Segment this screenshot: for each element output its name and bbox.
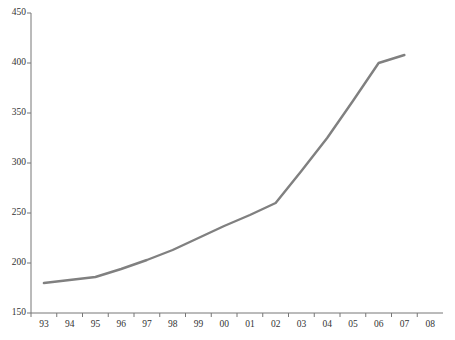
x-tick-label: 01 xyxy=(238,320,262,330)
x-tick-label: 96 xyxy=(109,320,133,330)
x-tick-label: 99 xyxy=(186,320,210,330)
x-tick-label: 03 xyxy=(289,320,313,330)
y-tick-label: 150 xyxy=(0,308,26,318)
x-tick-label: 97 xyxy=(135,320,159,330)
x-tick-label: 95 xyxy=(83,320,107,330)
x-tick-label: 02 xyxy=(264,320,288,330)
x-tick-label: 04 xyxy=(315,320,339,330)
x-tick-label: 94 xyxy=(58,320,82,330)
x-tick-label: 98 xyxy=(161,320,185,330)
y-tick-label: 200 xyxy=(0,258,26,268)
x-tick-label: 06 xyxy=(367,320,391,330)
x-tick-label: 05 xyxy=(341,320,365,330)
plot-area xyxy=(0,0,455,340)
x-tick-label: 00 xyxy=(212,320,236,330)
y-tick-label: 450 xyxy=(0,8,26,18)
x-tick-label: 93 xyxy=(32,320,56,330)
y-tick-label: 350 xyxy=(0,108,26,118)
x-tick-label: 08 xyxy=(418,320,442,330)
line-chart: 150200250300350400450 939495969798990001… xyxy=(0,0,455,340)
y-tick-label: 400 xyxy=(0,58,26,68)
y-axis-ticks xyxy=(27,13,31,313)
x-tick-label: 07 xyxy=(392,320,416,330)
y-tick-label: 250 xyxy=(0,208,26,218)
x-axis-ticks xyxy=(31,313,417,317)
data-series-line xyxy=(44,55,405,283)
y-tick-label: 300 xyxy=(0,158,26,168)
